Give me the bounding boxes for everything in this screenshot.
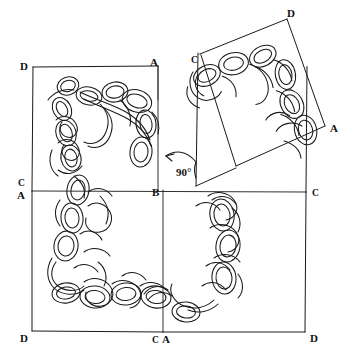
label-main-bottom-center-left: C: [152, 335, 159, 345]
label-rotated-right: A: [330, 122, 338, 134]
label-main-top-right: A: [150, 56, 158, 68]
angle-label: 90°: [176, 166, 191, 178]
label-rotated-left: C: [191, 55, 198, 65]
label-main-left-mid-lower: A: [17, 189, 25, 201]
label-main-top-left: D: [20, 60, 28, 72]
label-main-right-mid: C: [312, 188, 319, 198]
label-main-left-mid-upper: C: [18, 178, 25, 188]
label-rotated-top: D: [287, 7, 295, 19]
knotwork-diagram: D A C A B C D C A D D C A 90°: [0, 0, 360, 361]
label-main-bottom-center-right: A: [162, 333, 170, 345]
figure-canvas: D A C A B C D C A D D C A 90°: [0, 0, 360, 361]
label-main-bottom-left: D: [20, 332, 28, 344]
label-main-bottom-right: D: [310, 332, 318, 344]
label-main-center-b: B: [152, 186, 160, 198]
